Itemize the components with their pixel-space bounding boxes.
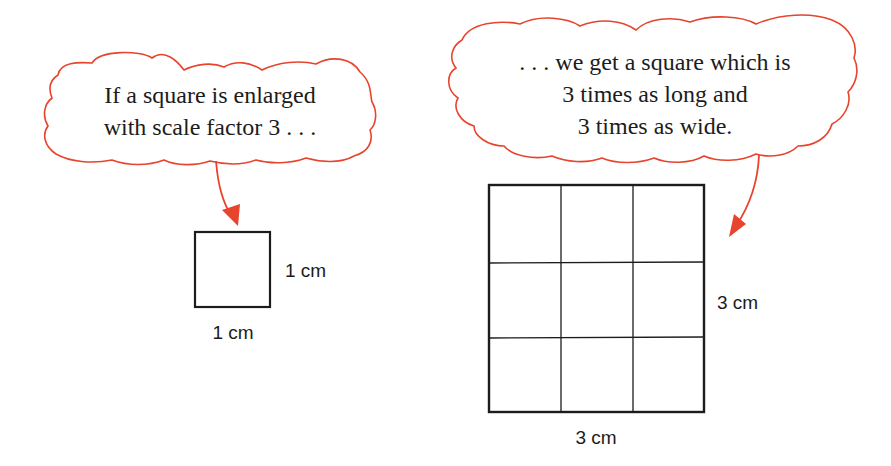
right-arrowhead-icon xyxy=(729,214,746,237)
right-speech-bubble: . . . we get a square which is 3 times a… xyxy=(449,15,857,162)
right-bubble-line-3: 3 times as wide. xyxy=(578,113,733,139)
small-square-bottom-label: 1 cm xyxy=(212,322,253,343)
left-arrowhead-icon xyxy=(222,204,240,226)
small-square-outline xyxy=(195,232,270,307)
small-square: 1 cm 1 cm xyxy=(195,232,326,343)
large-square: 3 cm 3 cm xyxy=(489,185,758,448)
left-bubble-line-2: with scale factor 3 . . . xyxy=(104,114,317,140)
left-bubble-line-1: If a square is enlarged xyxy=(104,82,315,108)
large-square-side-label: 3 cm xyxy=(717,292,758,313)
right-bubble-line-2: 3 times as long and xyxy=(562,81,747,107)
enlargement-diagram: If a square is enlarged with scale facto… xyxy=(0,0,891,466)
right-arrow-icon xyxy=(736,155,759,226)
small-square-side-label: 1 cm xyxy=(285,260,326,281)
large-square-outline xyxy=(489,185,704,412)
large-square-bottom-label: 3 cm xyxy=(575,427,616,448)
left-bubble-outline xyxy=(45,53,376,165)
left-speech-bubble: If a square is enlarged with scale facto… xyxy=(45,53,376,165)
right-bubble-line-1: . . . we get a square which is xyxy=(519,49,790,75)
